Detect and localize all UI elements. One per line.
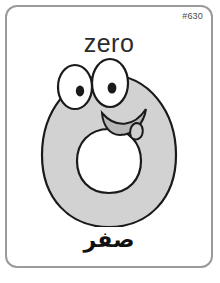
page-title: zero (7, 29, 211, 58)
left-eye-icon (58, 65, 92, 109)
illustration-container (7, 57, 211, 227)
tongue-icon (130, 123, 143, 139)
left-pupil-icon (76, 86, 84, 97)
card-number-label: #630 (182, 11, 203, 21)
right-eye-icon (92, 59, 128, 107)
right-pupil-icon (108, 82, 117, 93)
cartoon-zero-character-icon (24, 57, 194, 227)
translation-text: صفر (7, 227, 211, 252)
flashcard: #630 zero صفر (5, 5, 213, 268)
